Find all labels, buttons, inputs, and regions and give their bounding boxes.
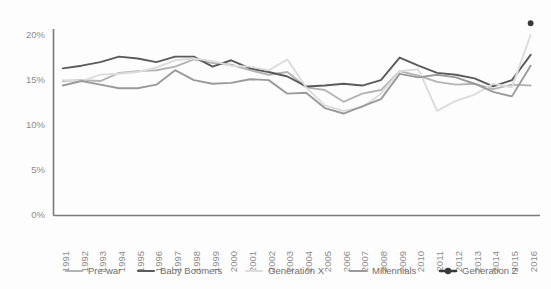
- legend-item[interactable]: Generation Z: [440, 265, 518, 276]
- x-axis-tick-label: 2010: [415, 251, 426, 272]
- y-axis-group: 0%5%10%15%20%: [26, 29, 54, 221]
- x-axis-tick-label: 2007: [359, 251, 370, 272]
- x-axis-group: 1991199219931994199519961997199819992000…: [54, 216, 541, 273]
- y-axis-tick-label: 0%: [31, 209, 45, 220]
- x-axis-tick-label: 2001: [247, 251, 258, 272]
- chart-canvas: 0%5%10%15%20% 19911992199319941995199619…: [0, 0, 551, 289]
- y-axis-tick-label: 10%: [26, 119, 46, 130]
- y-axis-tick-labels: 0%5%10%15%20%: [26, 29, 46, 221]
- x-axis-tick-label: 2000: [228, 251, 239, 272]
- legend-item[interactable]: Baby Boomers: [138, 265, 223, 276]
- legend-label: Millennials: [372, 265, 417, 276]
- legend-item[interactable]: Pre-war: [66, 265, 121, 276]
- line-chart: 0%5%10%15%20% 19911992199319941995199619…: [0, 0, 551, 289]
- data-point-marker: [528, 20, 534, 26]
- y-axis-tick-label: 15%: [26, 74, 46, 85]
- x-axis-tick-label: 2016: [528, 251, 539, 272]
- y-axis-tick-label: 5%: [31, 164, 45, 175]
- legend-label: Generation Z: [462, 265, 518, 276]
- series-lines: [63, 20, 534, 113]
- x-axis-tick-label: 1991: [60, 251, 71, 272]
- series-line: [63, 35, 531, 111]
- x-axis-tick-label: 2011: [434, 251, 445, 271]
- legend-marker-icon: [445, 268, 451, 274]
- x-axis-tick-label: 1995: [135, 251, 146, 272]
- legend-label: Pre-war: [88, 265, 121, 276]
- legend-label: Baby Boomers: [160, 265, 223, 276]
- legend-label: Generation X: [268, 265, 325, 276]
- y-axis-tick-label: 20%: [26, 29, 46, 40]
- x-axis-tick-label: 2006: [341, 251, 352, 272]
